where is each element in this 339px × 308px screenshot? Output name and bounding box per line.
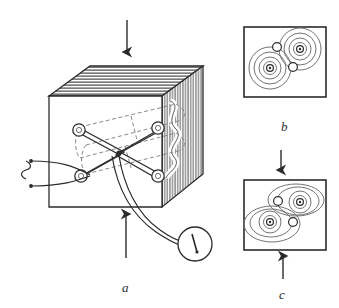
panel-a-apparatus <box>22 20 213 261</box>
center-dot <box>299 201 301 203</box>
sine-wave-icon <box>22 161 31 179</box>
panel-b-label: b <box>281 119 288 134</box>
panel-b-unstressed-field <box>244 27 326 97</box>
diagram-canvas: b c a <box>0 0 339 308</box>
cube-face-front <box>49 96 162 207</box>
center-dot <box>269 67 271 69</box>
electrode-node <box>152 122 164 134</box>
electrode-crossing-point <box>116 150 121 155</box>
center-dot <box>299 48 301 50</box>
plain-circle <box>274 197 283 206</box>
center-dot <box>269 221 271 223</box>
plain-circle <box>273 43 282 52</box>
panel-c-stressed-field <box>244 180 326 279</box>
plain-circle <box>289 63 298 72</box>
meter-pivot <box>195 250 198 253</box>
electrode-node <box>152 170 164 182</box>
panel-a-label: a <box>122 280 129 295</box>
plain-circle <box>289 218 298 227</box>
electrode-node <box>73 124 85 136</box>
figure-root: b c a <box>0 0 339 308</box>
panel-c-label: c <box>279 287 285 302</box>
meter <box>178 227 212 261</box>
